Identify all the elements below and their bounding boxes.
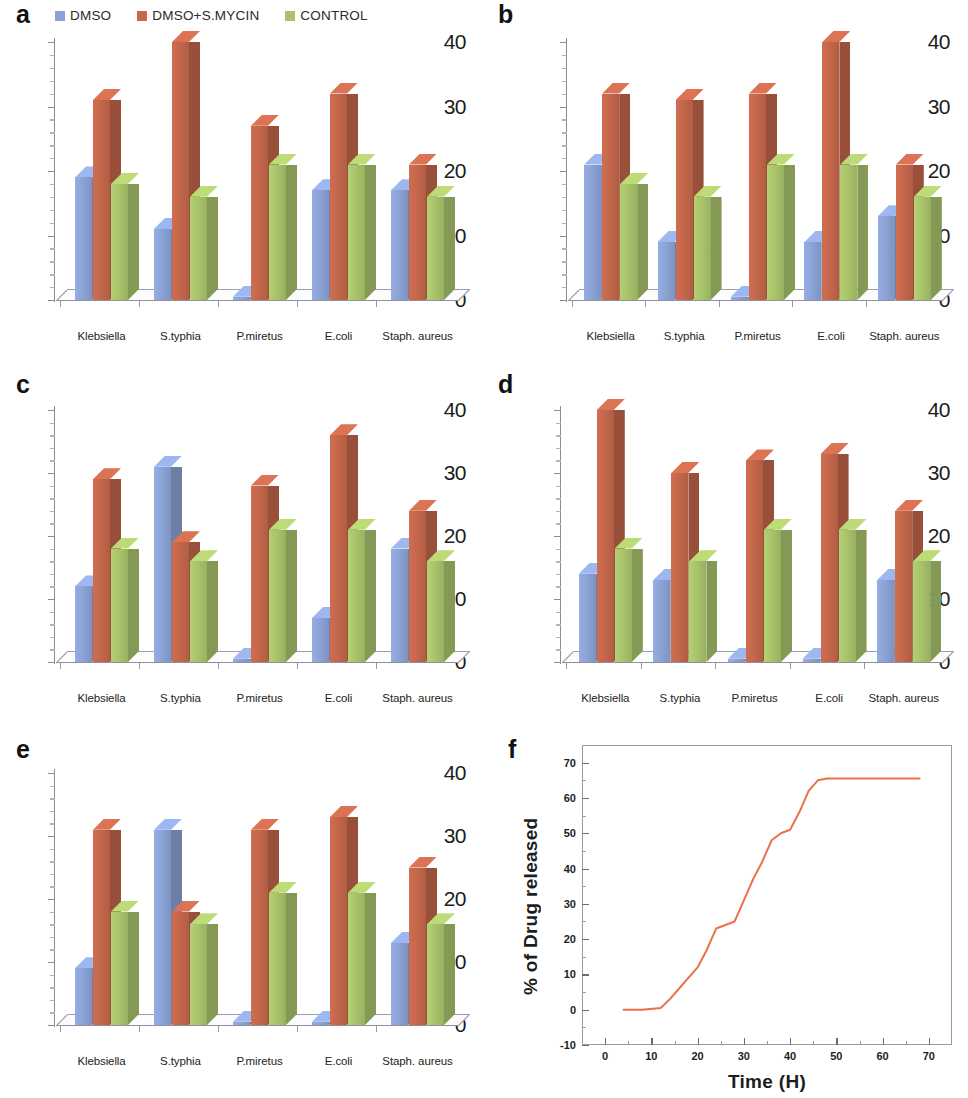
bar-dmso-s-mycin-p-miretus <box>746 460 763 662</box>
y-axis-tick-label: 20 <box>928 159 950 183</box>
panel-letter-b: b <box>498 2 513 27</box>
bar-dmso-e-coli <box>312 190 329 300</box>
bar-control-s-typhia <box>694 197 711 300</box>
y-axis-minor-tick <box>562 81 567 82</box>
y-axis-minor-tick <box>50 287 55 288</box>
bar-front-face <box>671 473 688 662</box>
bar-dmso-p-miretus <box>233 1022 250 1025</box>
panel-letter-c: c <box>16 372 30 397</box>
bar-front-face <box>111 184 128 300</box>
y-axis-minor-tick <box>556 612 561 613</box>
line-x-tick-label: 50 <box>830 1050 842 1062</box>
panel-letter-d: d <box>498 372 513 397</box>
bar-chart-plot-area: 010203040 <box>8 404 476 676</box>
bar-dmso-s-mycin-e-coli <box>821 454 838 662</box>
line-y-tick-label: 40 <box>564 863 576 875</box>
y-axis-tick-mark <box>48 836 55 837</box>
x-axis-tick-mark <box>376 301 377 307</box>
y-axis-tick-label: 40 <box>444 398 466 422</box>
line-y-tick-label: 50 <box>564 827 576 839</box>
y-axis-minor-tick <box>50 624 55 625</box>
panel-letter-f: f <box>508 737 516 762</box>
bar-front-face <box>233 1022 250 1025</box>
y-axis-minor-tick <box>50 55 55 56</box>
y-axis-minor-tick <box>50 145 55 146</box>
line-y-tick-label: 60 <box>564 792 576 804</box>
line-x-tick-label: 30 <box>738 1050 750 1062</box>
line-x-tick-label: 20 <box>692 1050 704 1062</box>
x-axis-category-label: Klebsiella <box>61 692 142 705</box>
y-axis-tick-label: 20 <box>444 524 466 548</box>
floor-right-edge <box>457 289 471 302</box>
y-axis-minor-tick <box>562 145 567 146</box>
bar-front-face <box>694 197 711 300</box>
bar-front-face <box>749 94 766 300</box>
y-axis-minor-tick <box>50 486 55 487</box>
bar-side-face <box>365 165 376 300</box>
bar-control-e-coli <box>348 530 365 662</box>
bar-front-face <box>409 511 426 662</box>
x-axis-tick-mark <box>218 1026 219 1032</box>
bar-dmso-klebsiella <box>75 177 92 300</box>
bar-control-staph-aureus <box>913 561 930 662</box>
y-axis-minor-tick <box>50 786 55 787</box>
line-y-tick-label: 30 <box>564 898 576 910</box>
x-axis-category-label: E.coli <box>298 692 379 705</box>
x-axis-tick-mark <box>864 663 865 669</box>
y-axis-minor-tick <box>50 197 55 198</box>
y-axis-tick-label: 30 <box>444 824 466 848</box>
line-y-tick-label: 70 <box>564 757 576 769</box>
y-axis-minor-tick <box>50 132 55 133</box>
y-axis-minor-tick <box>50 158 55 159</box>
bar-side-face <box>444 924 455 1025</box>
y-axis-tick-mark <box>560 171 567 172</box>
y-axis-tick-mark <box>48 536 55 537</box>
line-x-tick-label: 0 <box>602 1050 608 1062</box>
bar-front-face <box>269 165 286 300</box>
bar-side-face <box>637 184 648 300</box>
y-axis-minor-tick <box>562 119 567 120</box>
bar-side-face <box>784 165 795 300</box>
y-axis-minor-tick <box>562 55 567 56</box>
bar-dmso-s-mycin-p-miretus <box>749 94 766 300</box>
bar-dmso-s-typhia <box>154 229 171 300</box>
x-axis-category-label: E.coli <box>298 330 379 343</box>
bar-control-staph-aureus <box>427 561 444 662</box>
bar-dmso-s-mycin-s-typhia <box>172 912 189 1025</box>
bar-control-klebsiella <box>111 184 128 300</box>
y-axis-minor-tick <box>556 423 561 424</box>
x-axis-category-label: S.typhia <box>140 330 221 343</box>
bar-chart-plot-area: 010203040 <box>8 36 476 314</box>
bar-front-face <box>391 190 408 300</box>
bar-front-face <box>620 184 637 300</box>
chart-panel-a: aKlebsiellaS.typhiaP.miretusE.coliStaph.… <box>0 0 484 370</box>
bar-dmso-e-coli <box>312 618 329 662</box>
x-axis-category-label: P.miretus <box>219 692 300 705</box>
y-axis-tick-mark <box>48 300 55 301</box>
y-axis-tick-mark <box>48 410 55 411</box>
x-axis-category-label: P.miretus <box>219 1055 300 1068</box>
chart-panel-c: cKlebsiellaS.typhiaP.miretusE.coliStaph.… <box>0 370 484 740</box>
bar-dmso-s-mycin-s-typhia <box>671 473 688 662</box>
bar-dmso-klebsiella <box>579 574 596 662</box>
bar-control-p-miretus <box>767 165 784 300</box>
y-axis-minor-tick <box>556 637 561 638</box>
y-axis-tick-mark <box>560 236 567 237</box>
y-axis-minor-tick <box>562 197 567 198</box>
x-axis-category-label: Staph. aureus <box>863 692 944 705</box>
chart-panel-f: f% of Drug released-10010203040506070010… <box>484 735 968 1098</box>
x-axis-category-label: Klebsiella <box>61 1055 142 1068</box>
x-axis-category-label: S.typhia <box>639 692 720 705</box>
bar-top-face <box>93 89 121 100</box>
y-axis-tick-mark <box>48 962 55 963</box>
bar-front-face <box>154 467 171 662</box>
bar-dmso-s-mycin-staph-aureus <box>409 511 426 662</box>
y-axis-minor-tick <box>50 637 55 638</box>
bar-dmso-s-mycin-e-coli <box>330 817 347 1025</box>
line-x-tick-label: 10 <box>645 1050 657 1062</box>
bar-front-face <box>348 165 365 300</box>
chart-panel-e: eKlebsiellaS.typhiaP.miretusE.coliStaph.… <box>0 735 484 1098</box>
bar-front-face <box>391 549 408 662</box>
y-axis <box>8 767 54 1039</box>
y-axis-minor-tick <box>562 158 567 159</box>
